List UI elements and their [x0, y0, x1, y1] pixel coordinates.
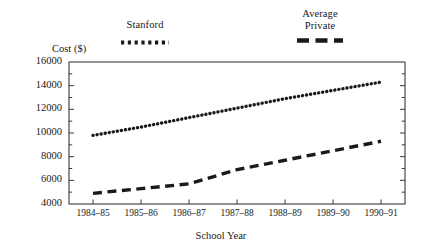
- y-tick-label: 4000: [16, 197, 62, 208]
- plot-frame: [69, 62, 405, 204]
- legend-label-stanford: Stanford: [108, 19, 182, 31]
- legend-swatch-stanford: [120, 40, 170, 45]
- legend-swatch-average-private: [296, 38, 344, 43]
- y-tick-label: 14000: [16, 79, 62, 90]
- y-tick-label: 16000: [16, 55, 62, 66]
- y-tick-label: 12000: [16, 102, 62, 113]
- y-tick-label: 8000: [16, 150, 62, 161]
- y-tick-label: 6000: [16, 173, 62, 184]
- y-axis-title: Cost ($): [52, 43, 86, 54]
- legend-label-average-private: Average Private: [281, 8, 359, 31]
- x-axis-title: School Year: [0, 230, 442, 241]
- y-tick-label: 10000: [16, 126, 62, 137]
- x-tick-label: 1990–91: [352, 208, 410, 218]
